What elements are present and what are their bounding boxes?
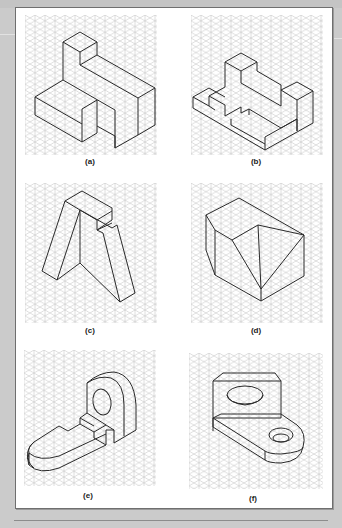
left-margin-rule (0, 34, 16, 35)
label-f: (f) (233, 494, 273, 503)
label-e: (e) (68, 491, 108, 500)
figure-b (191, 15, 323, 155)
figure-e (24, 350, 156, 486)
label-c: (c) (70, 326, 110, 335)
figure-d (191, 183, 323, 323)
figure-a (25, 15, 157, 155)
isometric-grid-b (191, 15, 323, 155)
label-d: (d) (236, 326, 276, 335)
isometric-grid-c (25, 183, 157, 323)
label-a: (a) (70, 157, 110, 166)
figure-f (189, 353, 323, 489)
isometric-grid-e (24, 350, 156, 486)
isometric-grid-f (189, 353, 323, 489)
bottom-rule (14, 520, 328, 521)
right-margin-rule (332, 38, 342, 39)
label-b: (b) (236, 157, 276, 166)
isometric-grid-a (25, 15, 157, 155)
figure-c (25, 183, 157, 323)
isometric-grid-d (191, 183, 323, 323)
